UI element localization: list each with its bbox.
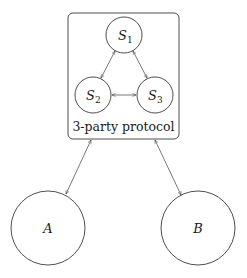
- node-b: B: [161, 191, 235, 265]
- node-s3-subscript: 3: [157, 95, 163, 105]
- node-a-label: A: [42, 221, 52, 236]
- node-s3: S3: [137, 77, 173, 113]
- node-a: A: [11, 191, 85, 265]
- edge-container-b: [155, 140, 181, 195]
- node-s1: S1: [106, 17, 142, 53]
- node-s3-label: S: [148, 88, 157, 103]
- protocol-container-label: 3-party protocol: [72, 119, 174, 134]
- diagram-canvas: S1 S2 S3 3-party protocol A B: [0, 0, 247, 278]
- edge-container-a: [66, 140, 91, 194]
- node-s1-label: S: [118, 28, 127, 43]
- node-s1-subscript: 1: [127, 35, 133, 45]
- node-s2-subscript: 2: [95, 95, 101, 105]
- node-s2-label: S: [86, 88, 95, 103]
- node-b-label: B: [192, 221, 203, 236]
- node-s2: S2: [75, 77, 111, 113]
